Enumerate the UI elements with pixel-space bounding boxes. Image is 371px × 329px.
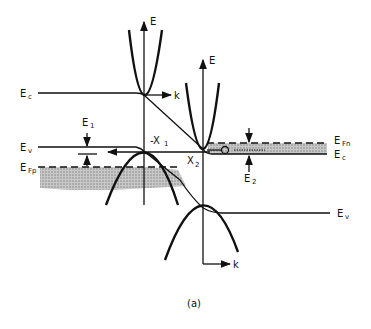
right-ec-label: E [334, 149, 340, 160]
e2-label: E [244, 173, 250, 184]
svg-text:Fn: Fn [342, 140, 350, 148]
left-ev-label: E [20, 142, 26, 153]
left-ec-label: E [20, 88, 26, 99]
minus-x1-label: -X [150, 135, 160, 146]
svg-text:Fp: Fp [28, 167, 37, 175]
e1-label: E [82, 117, 88, 128]
left-ev-line [38, 147, 145, 152]
x2-label: X [187, 155, 194, 166]
band-diagram: E k E c E v E Fp E 1 -X 1 E k X 2 E c E … [0, 0, 371, 329]
right-ev-label: E [337, 208, 343, 219]
svg-text:v: v [28, 147, 32, 155]
svg-text:1: 1 [90, 122, 94, 130]
right-efn-label: E [334, 135, 340, 146]
left-efp-label: E [20, 162, 26, 173]
left-axis-e-label: E [150, 16, 156, 27]
figure-caption: (a) [187, 298, 201, 309]
left-ec-line [38, 93, 144, 95]
left-axis-k-label: k [174, 90, 180, 101]
svg-text:v: v [345, 213, 349, 221]
n-side-shaded-region [208, 143, 327, 154]
svg-text:2: 2 [195, 161, 199, 169]
svg-text:1: 1 [164, 140, 168, 148]
right-axis-k-label: k [233, 259, 239, 270]
right-ev-line [203, 208, 330, 213]
svg-text:c: c [342, 154, 346, 162]
right-axis-e-label: E [209, 55, 215, 66]
svg-text:2: 2 [252, 178, 256, 186]
svg-text:c: c [28, 93, 32, 101]
left-conduction-parabola [129, 30, 162, 95]
